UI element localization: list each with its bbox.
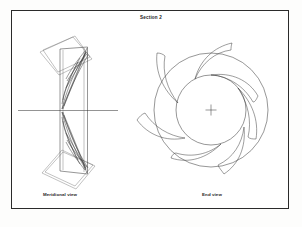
drawing-sheet: Section 2 <box>0 0 302 227</box>
meridional-view-group <box>18 36 118 189</box>
blade-7 <box>195 43 232 79</box>
center-crosshair-icon <box>206 105 217 116</box>
blade-6 <box>157 53 178 103</box>
caption-end-view: End view <box>172 192 252 197</box>
blade-3 <box>218 127 244 174</box>
blade-5 <box>137 113 185 139</box>
lower-end-disc <box>42 150 95 189</box>
blade-4 <box>171 144 221 160</box>
blade-1 <box>211 74 258 102</box>
impeller-blades <box>137 43 258 174</box>
caption-meridional-view: Meridional view <box>20 192 100 197</box>
end-view-group <box>137 43 268 174</box>
blade-2 <box>238 88 257 139</box>
